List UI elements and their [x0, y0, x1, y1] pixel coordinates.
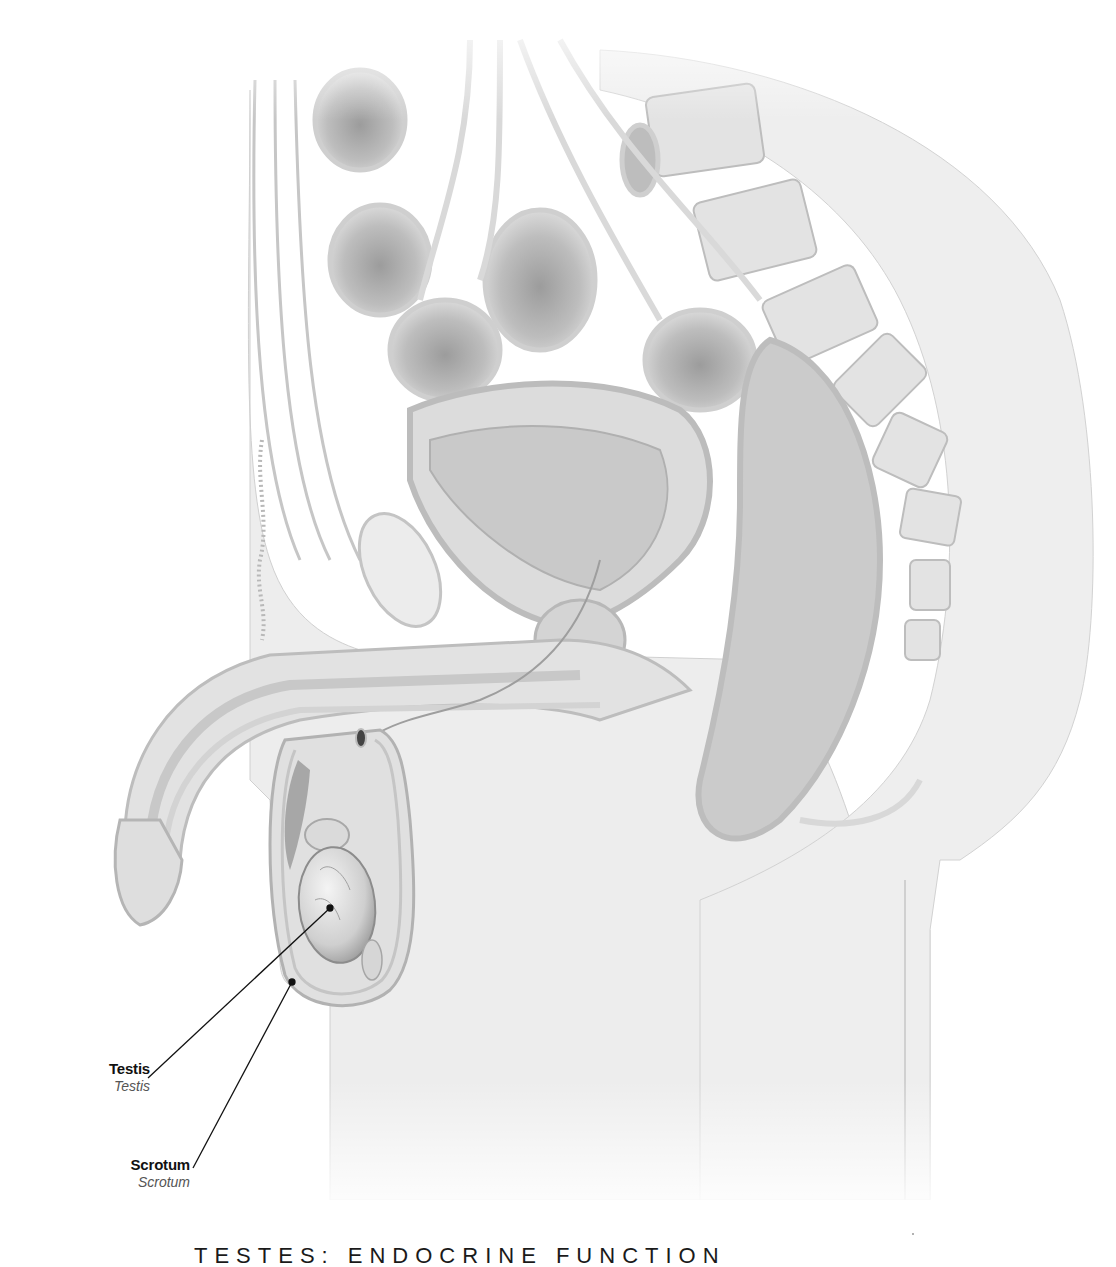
scrotum-label: Scrotum Scrotum [90, 1156, 190, 1191]
testis-anchor-dot [327, 905, 333, 911]
scrotum-label-latin: Scrotum [90, 1174, 190, 1191]
testis-label-latin: Testis [60, 1078, 150, 1095]
scrotum-anchor-dot [289, 979, 295, 985]
testis-label: Testis Testis [60, 1060, 150, 1095]
print-speck [912, 1233, 914, 1235]
scrotum-illustration [270, 729, 414, 1006]
bladder [410, 384, 710, 626]
testis-label-term: Testis [60, 1060, 150, 1078]
scrotum-label-term: Scrotum [90, 1156, 190, 1174]
page-title: TESTES: ENDOCRINE FUNCTION [194, 1243, 726, 1267]
